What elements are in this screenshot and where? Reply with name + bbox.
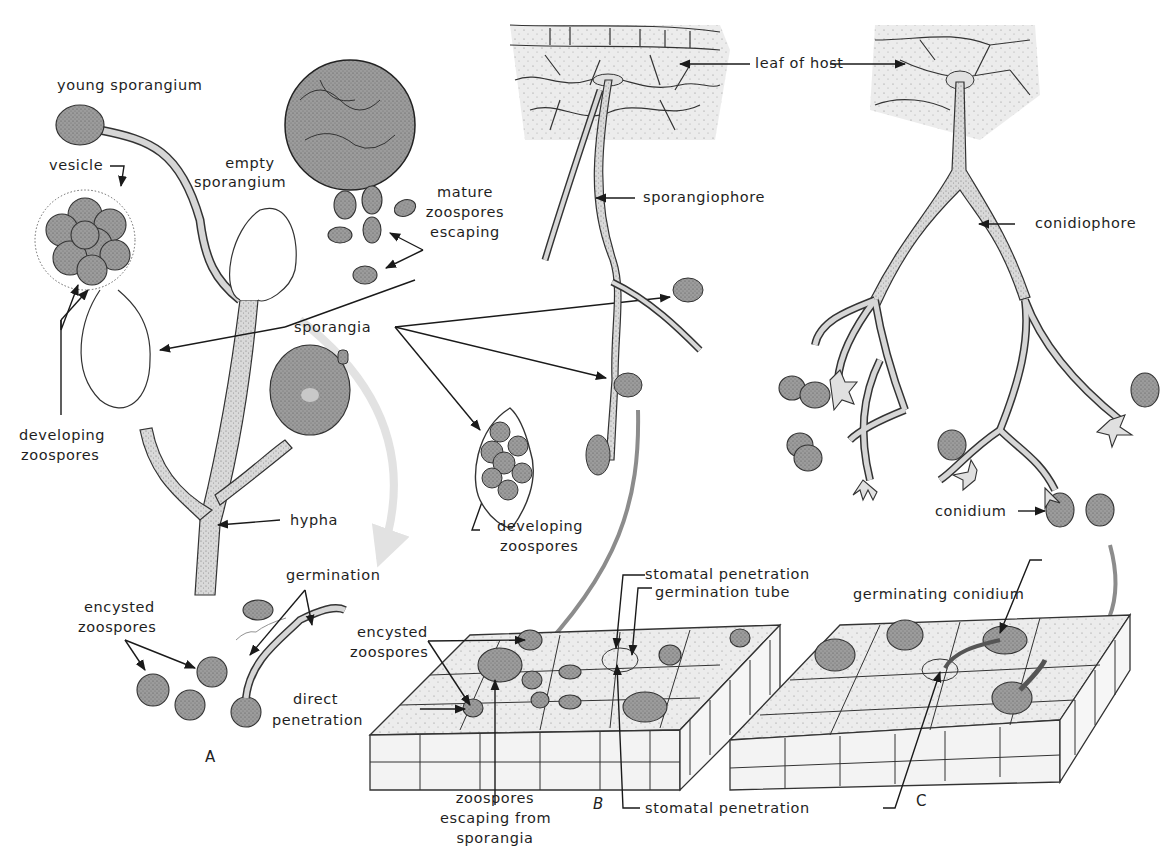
label-mature-line2: zoospores	[425, 204, 505, 221]
lemon-sporangium	[475, 408, 533, 528]
flow-arrow-b	[530, 410, 638, 662]
panel-b-sporangiophore	[510, 25, 730, 475]
life-cycle-illustration	[0, 0, 1160, 852]
label-germination: germination	[286, 567, 380, 584]
panel-b-leaf-slab	[370, 625, 780, 790]
panel-label-c: C	[916, 792, 926, 810]
label-germination-tube: germination tube	[655, 584, 790, 601]
panel-c-conidiophore	[779, 25, 1159, 527]
label-germinating-conidium: germinating conidium	[853, 586, 1024, 603]
label-mature-line1: mature	[425, 184, 505, 201]
label-leaf-of-host: leaf of host	[755, 55, 844, 72]
label-empty-sporangium-line1: empty	[200, 155, 300, 172]
label-direct-penetration-line2: penetration	[272, 712, 363, 729]
label-developing-zoospores-mid-line1: developing	[497, 518, 583, 535]
label-stomatal-penetration-bottom: stomatal penetration	[645, 800, 810, 817]
label-direct-penetration-line1: direct	[293, 691, 338, 708]
label-conidium: conidium	[935, 503, 1006, 520]
label-zoospores-escaping-line3: sporangia	[440, 830, 550, 847]
label-developing-zoospores-left-line2: zoospores	[21, 447, 100, 464]
label-empty-sporangium-line2: sporangium	[190, 174, 290, 191]
label-zoospores-escaping-line2: escaping from	[440, 810, 550, 827]
label-developing-zoospores-left-line1: developing	[19, 427, 105, 444]
panel-label-a: A	[205, 748, 215, 766]
label-encysted-zoospores-b-line2: zoospores	[350, 644, 429, 661]
label-encysted-zoospores-a-line1: encysted	[84, 599, 155, 616]
label-encysted-zoospores-b-line1: encysted	[357, 624, 428, 641]
label-mature-line3: escaping	[425, 224, 505, 241]
panel-label-b: B	[593, 795, 603, 813]
label-hypha: hypha	[290, 512, 338, 529]
label-young-sporangium: young sporangium	[57, 77, 202, 94]
label-zoospores-escaping-line1: zoospores	[440, 790, 550, 807]
label-stomatal-penetration-top: stomatal penetration	[645, 566, 810, 583]
panel-a-leaders	[61, 166, 670, 670]
label-encysted-zoospores-a-line2: zoospores	[78, 619, 157, 636]
label-sporangiophore: sporangiophore	[643, 189, 765, 206]
label-vesicle: vesicle	[49, 157, 103, 174]
label-conidiophore: conidiophore	[1035, 215, 1136, 232]
label-sporangia: sporangia	[294, 319, 371, 336]
label-developing-zoospores-mid-line2: zoospores	[500, 538, 579, 555]
